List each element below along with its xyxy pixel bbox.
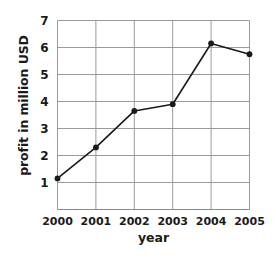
- y-axis-tick-label: 5: [27, 69, 49, 81]
- y-axis-tick-label: 3: [27, 123, 49, 135]
- x-axis-tick-label: 2003: [151, 216, 195, 228]
- data-point-marker: [93, 145, 99, 151]
- x-axis-title: year: [57, 230, 250, 245]
- x-axis-tick-label: 2001: [74, 216, 118, 228]
- y-axis-tick-label: 1: [27, 177, 49, 189]
- x-axis-tick-label: 2004: [189, 216, 233, 228]
- x-axis-tick-label: 2005: [228, 216, 272, 228]
- data-point-marker: [170, 101, 176, 107]
- y-axis-tick-label: 7: [27, 15, 49, 27]
- y-axis-tick-label: 4: [27, 96, 49, 108]
- data-line-profit: [58, 43, 250, 178]
- data-point-marker: [247, 51, 253, 57]
- y-axis-tick-label: 2: [27, 150, 49, 162]
- data-point-marker: [55, 176, 61, 182]
- data-point-marker: [208, 41, 214, 47]
- x-axis-tick-label: 2002: [112, 216, 156, 228]
- data-point-marker: [131, 108, 137, 114]
- line-chart: profit in million USD 1234567 2000200120…: [0, 0, 276, 259]
- x-axis-tick-label: 2000: [36, 216, 80, 228]
- y-axis-tick-label: 6: [27, 42, 49, 54]
